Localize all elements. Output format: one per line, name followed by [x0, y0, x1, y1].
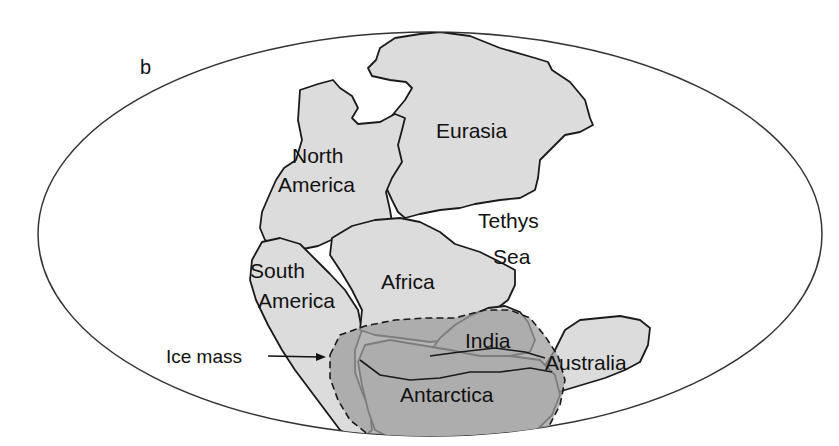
label-north-america-line2: America: [278, 173, 355, 196]
label-india: India: [465, 329, 511, 352]
ice-mass-arrow-line: [268, 356, 320, 357]
label-tethys-line1: Tethys: [478, 209, 539, 232]
label-africa: Africa: [381, 270, 435, 293]
label-tethys-line2: Sea: [493, 245, 531, 268]
ice-mass-region: [330, 310, 565, 446]
pangaea-map: b Eurasia North America Tethys Sea South…: [0, 0, 839, 446]
label-north-america-line1: North: [292, 144, 343, 167]
panel-label: b: [140, 56, 151, 78]
label-ice-mass: Ice mass: [166, 346, 242, 367]
label-antarctica: Antarctica: [400, 383, 494, 406]
label-south-america-line1: South: [250, 259, 305, 282]
label-south-america-line2: America: [258, 289, 335, 312]
label-eurasia: Eurasia: [436, 119, 508, 142]
label-australia: Australia: [545, 351, 627, 374]
